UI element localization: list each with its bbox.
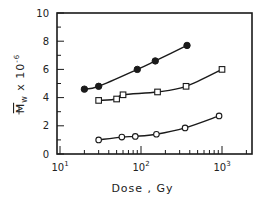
- data-point-open-square: [114, 96, 120, 102]
- data-point-filled-circle: [95, 83, 101, 89]
- x-tick-label: 102: [132, 160, 149, 173]
- data-point-filled-circle: [81, 86, 87, 92]
- series-open-circles: [96, 113, 222, 143]
- y-tick-label: 8: [43, 36, 49, 47]
- data-point-open-circle: [96, 137, 102, 143]
- data-point-open-circle: [216, 113, 222, 119]
- x-tick-label: 103: [213, 160, 230, 173]
- data-point-filled-circle: [134, 66, 140, 72]
- y-axis-title: Mw x 10-6: [13, 54, 29, 114]
- data-point-open-circle: [132, 134, 138, 140]
- data-point-filled-circle: [152, 58, 158, 64]
- y-tick-label: 10: [36, 8, 49, 19]
- data-point-filled-circle: [184, 42, 190, 48]
- series-filled-circles: [81, 42, 190, 92]
- y-tick-label: 6: [43, 64, 49, 75]
- y-tick-label: 0: [43, 149, 49, 160]
- data-point-open-square: [219, 67, 225, 73]
- data-point-open-circle: [154, 131, 160, 137]
- x-tick-label: 101: [51, 160, 68, 173]
- y-tick-label: 4: [43, 92, 49, 103]
- data-point-open-circle: [119, 134, 125, 140]
- data-point-open-square: [120, 92, 126, 98]
- data-point-open-square: [155, 89, 161, 95]
- data-point-open-square: [96, 98, 102, 104]
- x-axis-title: Dose , Gy: [111, 182, 173, 195]
- series-open-squares: [96, 67, 225, 104]
- chart: 0246810101102103Dose , GyMw x 10-6: [0, 0, 264, 201]
- y-tick-label: 2: [43, 120, 49, 131]
- data-point-open-circle: [182, 125, 188, 131]
- plot-area: 0246810101102103Dose , GyMw x 10-6: [0, 0, 264, 201]
- data-point-open-square: [183, 84, 189, 90]
